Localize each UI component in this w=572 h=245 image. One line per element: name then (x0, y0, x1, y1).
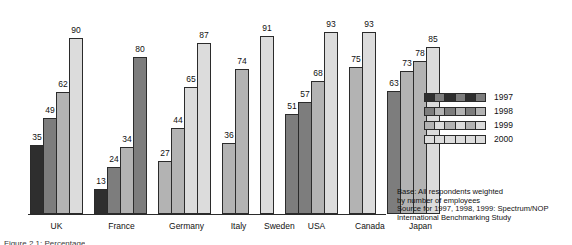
bar-group-germany: 27446587 (158, 18, 210, 214)
bar-value-label: 80 (135, 45, 144, 54)
legend-label-2000: 2000 (494, 135, 513, 144)
category-label-uk: UK (30, 219, 83, 233)
bar-value-label: 90 (71, 26, 80, 35)
bar-usa-1999: 68 (311, 81, 325, 214)
bar-value-label: 36 (224, 131, 233, 140)
legend-swatch-2000 (424, 135, 486, 144)
bar-group-uk: 35496290 (30, 18, 82, 214)
bar-italy-1998: 36 (222, 143, 236, 214)
bar-value-label: 91 (262, 24, 271, 33)
legend-item-2000: 2000 (424, 134, 564, 145)
bar-value-label: 34 (122, 135, 131, 144)
bar-germany-2000: 87 (197, 43, 211, 214)
bar-germany-1998: 44 (171, 128, 185, 214)
bar-value-label: 51 (287, 102, 296, 111)
bar-value-label: 87 (199, 31, 208, 40)
bar-uk-1999: 62 (56, 92, 70, 214)
bar-value-label: 62 (58, 80, 67, 89)
legend-label-1998: 1998 (494, 107, 513, 116)
bar-sweden-2000: 91 (260, 36, 274, 214)
bar-group-france: 13243480 (94, 18, 146, 214)
bar-value-label: 49 (45, 106, 54, 115)
bar-uk-1998: 49 (43, 118, 57, 214)
bar-uk-1997: 35 (30, 145, 44, 214)
legend-label-1999: 1999 (494, 121, 513, 130)
bar-value-label: 73 (402, 59, 411, 68)
bar-value-label: 74 (237, 57, 246, 66)
bar-value-label: 24 (109, 155, 118, 164)
legend-swatch-1999 (424, 121, 486, 130)
source-note-line-4: International Benchmarking Study (397, 214, 572, 223)
bar-groups-container: 3549629013243480274465873674915157689375… (30, 18, 439, 214)
category-label-france: France (95, 219, 148, 233)
bar-group-usa: 51576893 (285, 18, 337, 214)
legend-swatch-1997 (424, 93, 486, 102)
bar-value-label: 68 (313, 69, 322, 78)
bar-usa-1997: 51 (285, 114, 299, 214)
category-label-italy: Italy (225, 219, 252, 233)
bar-canada-2000: 93 (362, 32, 376, 214)
bar-usa-2000: 93 (324, 32, 338, 214)
bar-france-1997: 13 (94, 189, 108, 214)
bar-value-label: 44 (173, 116, 182, 125)
bar-value-label: 75 (351, 55, 360, 64)
category-label-canada: Canada (355, 219, 382, 233)
legend-item-1999: 1999 (424, 120, 564, 131)
bar-group-italy: 3674 (222, 18, 248, 214)
bar-value-label: 57 (300, 90, 309, 99)
bar-group-canada: 7593 (349, 18, 375, 214)
legend-label-1997: 1997 (494, 93, 513, 102)
category-label-germany: Germany (160, 219, 213, 233)
bar-germany-1997: 27 (158, 161, 172, 214)
bar-value-label: 63 (389, 79, 398, 88)
bar-value-label: 93 (364, 20, 373, 29)
bar-group-sweden: 91 (260, 18, 273, 214)
category-label-sweden: Sweden (264, 219, 278, 233)
bar-canada-1999: 75 (349, 67, 363, 214)
bar-value-label: 27 (160, 149, 169, 158)
figure-caption: Figure 2.1: Percentage (4, 239, 85, 245)
bar-chart-plot-area: 3549629013243480274465873674915157689375… (0, 0, 392, 242)
bar-value-label: 13 (96, 177, 105, 186)
category-labels-row: UKFranceGermanyItalySwedenUSACanadaJapan (30, 219, 447, 233)
bar-value-label: 93 (326, 20, 335, 29)
legend-item-1997: 1997 (424, 92, 564, 103)
bar-usa-1998: 57 (298, 102, 312, 214)
x-axis-baseline (28, 214, 386, 215)
bar-germany-1999: 65 (184, 87, 198, 214)
bar-value-label: 35 (32, 133, 41, 142)
bar-value-label: 78 (415, 49, 424, 58)
legend-item-1998: 1998 (424, 106, 564, 117)
chart-legend: 1997199819992000 (424, 92, 564, 148)
category-label-usa: USA (290, 219, 343, 233)
bar-france-2000: 80 (133, 57, 147, 214)
bar-france-1999: 34 (120, 147, 134, 214)
source-note: Base: All respondents weightedby number … (397, 188, 572, 222)
bar-uk-2000: 90 (69, 38, 83, 214)
legend-swatch-1998 (424, 107, 486, 116)
bar-france-1998: 24 (107, 167, 121, 214)
bar-value-label: 85 (428, 35, 437, 44)
bar-italy-1999: 74 (235, 69, 249, 214)
bar-value-label: 65 (186, 75, 195, 84)
